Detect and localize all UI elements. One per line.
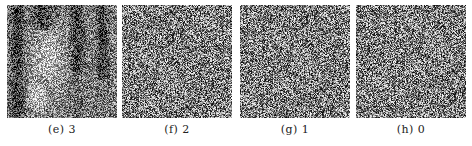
noise-image-f: [122, 5, 232, 118]
panel-f-image: [122, 5, 232, 118]
noise-image-h: [356, 5, 466, 118]
caption-f: (f) 2: [122, 123, 232, 136]
panel-h-image: [356, 5, 466, 118]
noise-image-g: [240, 5, 350, 118]
panel-e-image: [7, 5, 117, 118]
noise-image-e: [7, 5, 117, 118]
caption-e: (e) 3: [7, 123, 117, 136]
panel-g-image: [240, 5, 350, 118]
caption-g: (g) 1: [240, 123, 350, 136]
caption-h: (h) 0: [356, 123, 466, 136]
